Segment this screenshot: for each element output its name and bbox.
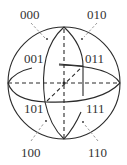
label-011: 011	[85, 51, 104, 66]
label-111: 111	[86, 101, 105, 116]
meridian-right-upper-arc	[64, 27, 83, 96]
marker-110	[82, 121, 84, 123]
center-point	[63, 82, 66, 85]
marker-100	[45, 120, 47, 122]
marker-010	[81, 38, 83, 40]
label-000: 000	[20, 7, 40, 22]
pointer-010	[84, 23, 97, 37]
label-001: 001	[24, 51, 44, 66]
meridian-right-lower-arc	[64, 112, 81, 139]
sphere-diagram: 000 010 001 011 101 111 100 110	[0, 0, 127, 165]
label-110: 110	[88, 145, 107, 160]
pointer-110	[85, 125, 98, 141]
label-101: 101	[24, 101, 44, 116]
label-100: 100	[21, 145, 41, 160]
equator-back-left-arc	[8, 68, 32, 83]
marker-000	[46, 38, 48, 40]
pointer-100	[31, 123, 44, 141]
label-010: 010	[87, 7, 107, 22]
